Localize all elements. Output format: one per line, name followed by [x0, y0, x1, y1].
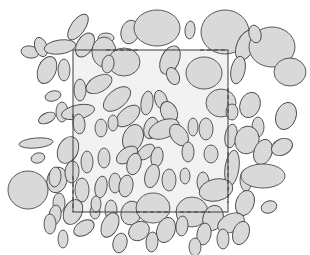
ellipse-particle: [58, 59, 70, 81]
ellipse-particle: [189, 238, 201, 255]
ellipse-particle: [162, 169, 176, 191]
ellipse-particle: [274, 58, 306, 86]
ellipse-particle: [58, 230, 68, 248]
ellipse-particle: [188, 118, 198, 136]
ellipse-particle: [182, 142, 194, 162]
ellipse-particle: [186, 57, 222, 89]
ellipse-particle: [134, 10, 180, 46]
ellipse-particle: [81, 151, 93, 173]
ellipse-particle: [199, 118, 213, 140]
ellipse-particle: [180, 168, 190, 184]
ellipse-particle: [75, 178, 89, 202]
ellipse-boolean-model-figure: Boolean model of ellipses with rectangul…: [0, 0, 310, 255]
ellipse-particle: [74, 79, 86, 101]
ellipse-particle: [108, 115, 118, 131]
ellipse-particle: [204, 145, 218, 163]
ellipse-particle: [241, 164, 285, 188]
ellipse-particle: [98, 148, 110, 168]
ellipse-particle: [8, 171, 48, 209]
figure-root: Boolean model of ellipses with rectangul…: [0, 0, 310, 255]
ellipse-particle: [44, 214, 56, 234]
ellipse-particle: [95, 119, 107, 137]
ellipse-particle: [217, 229, 229, 249]
ellipse-particle: [91, 196, 101, 212]
